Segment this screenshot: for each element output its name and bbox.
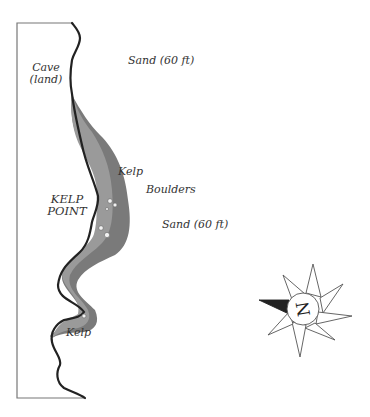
label-sand-top: Sand (60 ft) (128, 55, 194, 67)
boulder-icon (113, 203, 117, 207)
label-kelp-point-line2: POINT (44, 205, 90, 217)
label-kelp-point: KELP POINT (44, 193, 90, 217)
boulder-icon (99, 226, 104, 231)
boulder-icon (82, 314, 86, 318)
compass-rose-icon: N (259, 264, 352, 357)
boulder-icon (104, 232, 109, 237)
label-kelp-lower: Kelp (66, 327, 91, 339)
boulder-icon (108, 199, 113, 204)
label-sand-mid: Sand (60 ft) (162, 219, 228, 231)
label-cave: Cave (land) (26, 62, 66, 86)
label-boulders: Boulders (146, 184, 196, 196)
boulder-icon (106, 208, 109, 211)
label-cave-line2: (land) (26, 74, 66, 86)
label-kelp-upper: Kelp (118, 166, 143, 178)
